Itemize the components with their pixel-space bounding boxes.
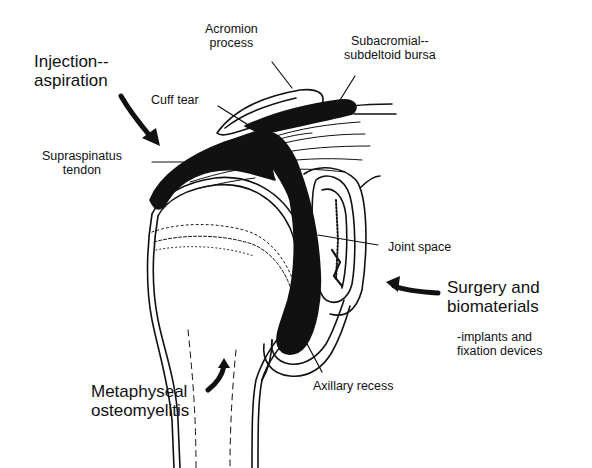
joint-space-leader — [318, 235, 378, 245]
osteomyelitis-arrow — [208, 358, 230, 390]
label-metaphyseal-osteomyelitis: Metaphyseal osteomyelitis — [91, 382, 189, 420]
label-injection-aspiration: Injection-- aspiration — [34, 52, 109, 90]
label-implants-fixation: -implants and fixation devices — [457, 330, 542, 358]
label-cuff-tear: Cuff tear — [151, 93, 199, 107]
subacromial-bursa — [245, 100, 396, 134]
humeral-head — [152, 177, 308, 330]
bursa-leader — [340, 76, 355, 100]
label-axillary-recess: Axillary recess — [313, 379, 394, 393]
label-acromion-process: Acromion process — [205, 22, 258, 50]
label-surgery-biomaterials: Surgery and biomaterials — [447, 278, 540, 316]
surgery-arrow — [386, 276, 438, 293]
axillary-leader — [305, 340, 322, 372]
humeral-shaft — [148, 214, 297, 468]
acromion-leader — [272, 62, 292, 88]
label-joint-space: Joint space — [388, 240, 451, 254]
label-supraspinatus-tendon: Supraspinatus tendon — [42, 149, 122, 177]
label-subacromial-bursa: Subacromial-- subdeltoid bursa — [344, 34, 436, 62]
